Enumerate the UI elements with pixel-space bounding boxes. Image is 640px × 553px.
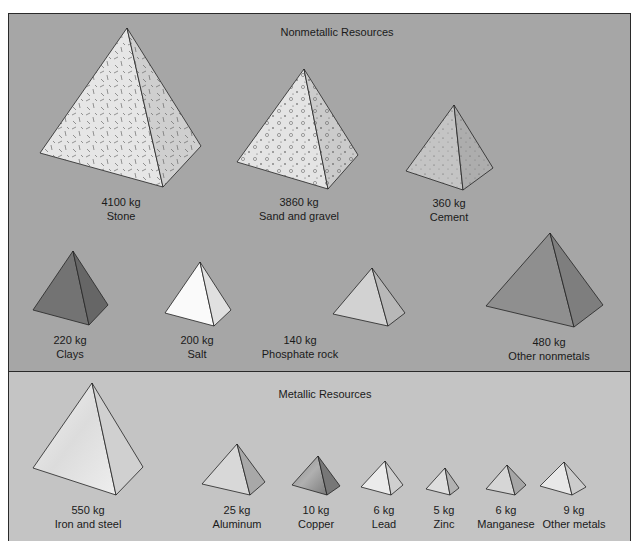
amount: 9 kg	[543, 503, 606, 517]
resource-name: Lead	[372, 517, 396, 531]
label-salt: 200 kg Salt	[180, 333, 213, 361]
label-zinc: 5 kg Zinc	[434, 503, 455, 531]
pyramid-other-nonmetals	[486, 233, 603, 327]
pyramid-stone	[40, 28, 201, 187]
pyramid-aluminum	[202, 444, 265, 495]
amount: 3860 kg	[259, 195, 339, 209]
amount: 200 kg	[180, 333, 213, 347]
resource-name: Manganese	[477, 517, 535, 531]
pyramid-iron-and-steel	[33, 383, 143, 495]
resource-name: Iron and steel	[55, 517, 122, 531]
amount: 220 kg	[53, 333, 86, 347]
resource-name: Clays	[53, 347, 86, 361]
amount: 6 kg	[477, 503, 535, 517]
amount: 550 kg	[55, 503, 122, 517]
amount: 4100 kg	[101, 195, 140, 209]
label-clays: 220 kg Clays	[53, 333, 86, 361]
resource-name: Sand and gravel	[259, 209, 339, 223]
resource-name: Phosphate rock	[262, 347, 338, 361]
resource-name: Aluminum	[213, 517, 262, 531]
label-aluminum: 25 kg Aluminum	[213, 503, 262, 531]
resource-name: Cement	[430, 210, 469, 224]
pyramid-salt	[165, 262, 231, 326]
amount: 6 kg	[372, 503, 396, 517]
resource-name: Copper	[298, 517, 334, 531]
pyramid-lead	[361, 461, 403, 495]
label-copper: 10 kg Copper	[298, 503, 334, 531]
label-iron-and-steel: 550 kg Iron and steel	[55, 503, 122, 531]
resource-name: Other nonmetals	[508, 349, 589, 363]
amount: 10 kg	[298, 503, 334, 517]
label-other-nonmetals: 480 kg Other nonmetals	[508, 335, 589, 363]
label-sand-and-gravel: 3860 kg Sand and gravel	[259, 195, 339, 223]
pyramid-cement	[406, 105, 493, 190]
amount: 140 kg	[262, 333, 338, 347]
amount: 480 kg	[508, 335, 589, 349]
amount: 5 kg	[434, 503, 455, 517]
pyramid-copper	[292, 456, 340, 495]
resource-name: Salt	[180, 347, 213, 361]
pyramid-other-metals	[540, 462, 586, 495]
label-phosphate-rock: 140 kg Phosphate rock	[262, 333, 338, 361]
pyramid-manganese	[486, 465, 526, 495]
resource-name: Stone	[101, 209, 140, 223]
pyramid-phosphate-rock	[333, 268, 405, 326]
resource-name: Zinc	[434, 517, 455, 531]
label-manganese: 6 kg Manganese	[477, 503, 535, 531]
label-other-metals: 9 kg Other metals	[543, 503, 606, 531]
label-cement: 360 kg Cement	[430, 196, 469, 224]
pyramid-graphics	[0, 0, 640, 553]
resource-name: Other metals	[543, 517, 606, 531]
label-lead: 6 kg Lead	[372, 503, 396, 531]
label-stone: 4100 kg Stone	[101, 195, 140, 223]
pyramid-zinc	[426, 468, 459, 495]
amount: 360 kg	[430, 196, 469, 210]
pyramid-sand-and-gravel	[237, 69, 358, 189]
amount: 25 kg	[213, 503, 262, 517]
pyramid-clays	[33, 251, 108, 325]
